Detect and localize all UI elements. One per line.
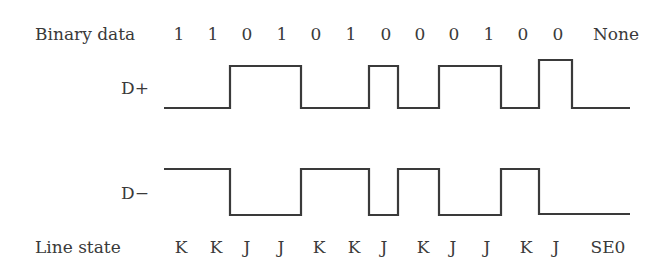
state-cell: J [450,237,457,257]
dplus-waveform [164,60,630,108]
state-cell: SE0 [591,237,626,257]
state-cell: J [278,237,285,257]
state-cell: J [484,237,491,257]
state-cell: J [553,237,560,257]
state-cell: K [210,237,223,257]
state-cell: K [313,237,326,257]
state-cell: J [244,237,251,257]
state-cell: K [520,237,533,257]
state-cell: K [417,237,430,257]
state-cell: K [348,237,361,257]
state-cell: K [175,237,188,257]
state-cell: J [381,237,388,257]
waveforms [0,0,671,274]
dminus-waveform [164,169,630,215]
